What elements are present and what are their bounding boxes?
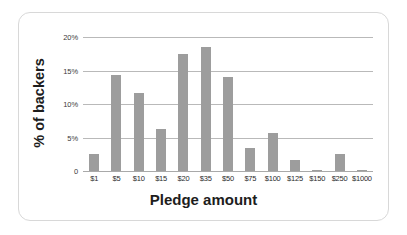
bar-slot <box>150 37 172 171</box>
bar-1 <box>89 154 99 171</box>
x-tick-label: $35 <box>195 174 217 183</box>
chart-card: % of backers 20% 15% 10% 5% 0 <box>18 12 389 221</box>
x-tick-label: $5 <box>105 174 127 183</box>
bar-20 <box>178 54 188 171</box>
bar-slot <box>83 37 105 171</box>
x-tick-label: $250 <box>328 174 350 183</box>
bar-35 <box>201 47 211 171</box>
bar-slot <box>195 37 217 171</box>
plot-area: 20% 15% 10% 5% 0 <box>83 37 373 171</box>
y-tick-label-10: 10% <box>63 100 78 109</box>
x-axis-tick-labels: $1 $5 $10 $15 $20 $35 $50 $75 $100 $125 … <box>83 174 373 183</box>
bar-75 <box>245 148 255 171</box>
bar-slot <box>172 37 194 171</box>
bar-15 <box>156 129 166 171</box>
bar-slot <box>306 37 328 171</box>
x-tick-label: $100 <box>262 174 284 183</box>
y-axis-title-container: % of backers <box>27 31 51 175</box>
x-tick-label: $1000 <box>351 174 373 183</box>
y-tick-label-5: 5% <box>67 133 78 142</box>
bar-100 <box>268 133 278 171</box>
y-tick-label-15: 15% <box>63 66 78 75</box>
gridline-0-baseline: 0 <box>83 171 373 172</box>
x-axis-title: Pledge amount <box>19 191 388 208</box>
bar-slot <box>217 37 239 171</box>
bar-1000 <box>357 170 367 171</box>
bar-slot <box>284 37 306 171</box>
bar-slot <box>262 37 284 171</box>
x-tick-label: $20 <box>172 174 194 183</box>
x-tick-label: $150 <box>306 174 328 183</box>
bar-slot <box>128 37 150 171</box>
bar-slot <box>105 37 127 171</box>
bar-250 <box>335 154 345 171</box>
bar-series <box>83 37 373 171</box>
x-tick-label: $125 <box>284 174 306 183</box>
y-axis-title: % of backers <box>31 58 47 147</box>
bar-slot <box>239 37 261 171</box>
bar-slot <box>351 37 373 171</box>
y-tick-label-0: 0 <box>74 167 78 176</box>
x-tick-label: $50 <box>217 174 239 183</box>
bar-125 <box>290 160 300 171</box>
bar-5 <box>111 75 121 171</box>
x-tick-label: $10 <box>128 174 150 183</box>
x-tick-label: $15 <box>150 174 172 183</box>
bar-slot <box>328 37 350 171</box>
bar-10 <box>134 93 144 171</box>
x-tick-label: $1 <box>83 174 105 183</box>
bar-50 <box>223 77 233 171</box>
bar-150 <box>312 170 322 171</box>
y-tick-label-20: 20% <box>63 33 78 42</box>
x-tick-label: $75 <box>239 174 261 183</box>
